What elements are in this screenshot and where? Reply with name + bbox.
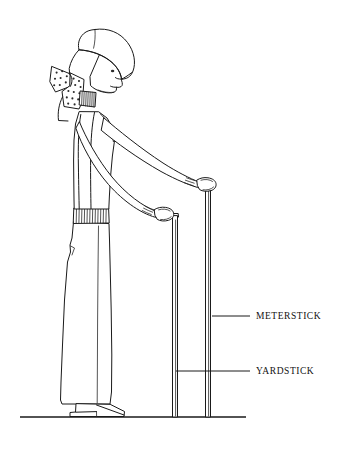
- yardstick: [172, 214, 179, 418]
- left-hand: [155, 207, 174, 221]
- yardstick-label: YARDSTICK: [256, 367, 314, 377]
- right-arm: [102, 118, 202, 189]
- ribbed-collar: [80, 91, 97, 107]
- trousers: [61, 222, 112, 404]
- shoe-heel: [76, 412, 97, 413]
- illustration-figure: METERSTICK YARDSTICK: [0, 0, 351, 450]
- line-drawing-canvas: [0, 0, 351, 450]
- eye: [111, 70, 114, 73]
- meterstick: [205, 184, 212, 418]
- right-hand: [197, 178, 216, 192]
- bonnet-side-edge: [69, 50, 79, 73]
- shoe: [70, 404, 125, 417]
- meterstick-label: METERSTICK: [256, 312, 321, 322]
- shoe-outline: [70, 404, 125, 417]
- meterstick-shaft: [206, 186, 211, 417]
- yardstick-shaft: [173, 216, 178, 417]
- ribbed-waistband: [74, 208, 110, 224]
- leader-lines: [176, 316, 250, 371]
- trousers-outline: [61, 222, 112, 404]
